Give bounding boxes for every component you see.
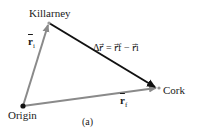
r-final-subscript: f [125, 101, 127, 109]
displacement-label: Δr⃗ = r⃗f − r⃗i [93, 43, 139, 53]
vector-r-initial [23, 25, 48, 106]
r-initial-subscript: i [33, 42, 35, 50]
vector-displacement [49, 23, 155, 87]
vector-r-final [23, 88, 156, 106]
origin-dot [20, 103, 25, 108]
killarney-dot [47, 21, 50, 24]
cork-label: Cork [163, 85, 185, 96]
killarney-label: Killarney [29, 8, 71, 19]
origin-label: Origin [8, 110, 37, 121]
r-initial-label: ri [28, 36, 35, 50]
caption: (a) [82, 117, 93, 127]
r-final-label: rf [120, 95, 127, 109]
cork-dot [157, 86, 160, 89]
